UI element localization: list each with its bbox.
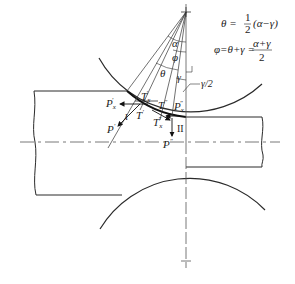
gamma-label: γ (177, 72, 182, 83)
radial-lines (108, 12, 186, 148)
eq-theta-frac-num: 1 (245, 11, 251, 23)
eq-phi-frac-num: α+γ (253, 37, 271, 49)
svg-text:Px″: Px″ (173, 99, 185, 114)
phi-label: φ (172, 51, 178, 63)
label-Tx-dprime: Tx″ (153, 115, 163, 130)
gamma-half-leader (183, 84, 200, 92)
svg-text:P′: P′ (106, 122, 116, 135)
eq-theta-rhs: (α−γ) (253, 17, 278, 30)
rolling-diagram: θ = 1 2 (α−γ) φ=θ+γ = α+γ 2 α φ θ γ γ/2 … (0, 0, 295, 284)
eq-phi-lhs: φ=θ+γ = (214, 43, 255, 55)
label-Px-dprime: Px″ (173, 99, 185, 114)
equation-phi: φ=θ+γ = α+γ 2 (214, 37, 272, 63)
theta-label: θ (160, 67, 166, 79)
gamma-half-label: γ/2 (201, 78, 213, 89)
svg-text:Tx′: Tx′ (141, 89, 151, 104)
equation-theta: θ = 1 2 (α−γ) (221, 11, 278, 35)
eq-theta-frac-den: 2 (245, 23, 251, 35)
svg-text:Px′: Px′ (105, 96, 117, 111)
svg-text:T′: T′ (136, 108, 144, 121)
svg-text:P″: P″ (162, 137, 173, 150)
label-T-prime: T′ (136, 108, 144, 121)
workpiece-right-break-edge (262, 117, 264, 167)
zone-I-label: I (125, 112, 128, 122)
alpha-label: α (172, 37, 178, 49)
svg-text:Tx″: Tx″ (153, 115, 163, 130)
eq-theta-lhs: θ = (221, 17, 237, 29)
diagram-canvas: θ = 1 2 (α−γ) φ=θ+γ = α+γ 2 α φ θ γ γ/2 … (0, 0, 295, 284)
lower-roll-arc (100, 178, 265, 229)
lower-roll (100, 178, 265, 229)
gamma-half-bracket (186, 66, 192, 72)
label-Px-prime: Px′ (105, 96, 117, 111)
label-Tx-prime: Tx′ (141, 89, 151, 104)
eq-phi-frac-den: 2 (259, 51, 265, 63)
workpiece-left-break-edge (34, 91, 36, 195)
label-P-prime: P′ (106, 122, 116, 135)
radial-line-1 (108, 12, 186, 148)
zone-II-label: II (177, 123, 184, 134)
label-P-dprime: P″ (162, 137, 173, 150)
